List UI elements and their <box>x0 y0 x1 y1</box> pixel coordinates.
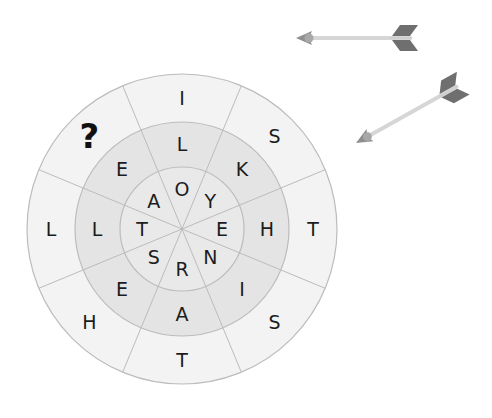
middle-ring-letter: L <box>92 220 103 239</box>
middle-ring-letter: L <box>177 135 188 154</box>
inner-ring-letter: O <box>175 180 190 199</box>
middle-ring-letter: K <box>236 159 248 178</box>
outer-ring-letter: L <box>46 220 57 239</box>
outer-ring-letter: S <box>269 312 281 331</box>
middle-ring-letter: I <box>239 280 245 299</box>
inner-ring-letter: T <box>136 220 148 239</box>
middle-ring-letter: E <box>116 280 128 299</box>
target-board <box>0 0 492 418</box>
middle-ring-letter: H <box>260 220 274 239</box>
inner-ring-letter: S <box>148 248 160 267</box>
outer-ring-letter: I <box>179 89 185 108</box>
inner-ring-letter: R <box>175 260 188 279</box>
outer-ring-letter: H <box>82 312 96 331</box>
inner-ring-letter: A <box>147 191 160 210</box>
missing-letter-marker: ? <box>79 119 99 153</box>
outer-ring-letter: T <box>176 351 188 370</box>
inner-ring-letter: Y <box>204 191 216 210</box>
middle-ring-letter: A <box>176 305 189 324</box>
puzzle-canvas: ISTSTHL?LKHIAELEOYENRSTA <box>0 0 492 418</box>
inner-ring-letter: N <box>203 248 217 267</box>
outer-ring-letter: T <box>307 220 319 239</box>
arrow-top-icon <box>296 25 418 51</box>
middle-ring-letter: E <box>116 159 128 178</box>
inner-ring-letter: E <box>216 220 228 239</box>
outer-ring-letter: S <box>269 127 281 146</box>
arrow-diagonal-icon <box>350 72 470 155</box>
